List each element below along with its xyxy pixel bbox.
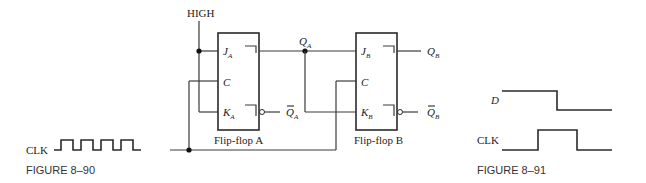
clk-waveform [54, 140, 141, 150]
cb-label: C [361, 76, 369, 88]
ffb-inverter-bubble [398, 110, 403, 115]
clk-91-label: CLK [477, 134, 499, 146]
qb-label: QB [427, 45, 440, 60]
ffa-inverter-bubble [260, 110, 265, 115]
figure-8-90-caption: FIGURE 8–90 [26, 164, 95, 176]
high-junction-dot [196, 48, 201, 53]
d-waveform [502, 91, 612, 110]
flipflop-a-label: Flip-flop A [214, 134, 263, 146]
clk-91-waveform [502, 130, 612, 150]
qa-label: QA [299, 35, 312, 50]
flipflop-b-label: Flip-flop B [354, 134, 403, 146]
figure-8-91-caption: FIGURE 8–91 [477, 164, 546, 176]
high-label: HIGH [187, 7, 215, 19]
clk-label: CLK [26, 144, 48, 156]
clk-junction-dot [186, 147, 191, 152]
d-label: D [490, 94, 499, 106]
qbar-a-label: QA [286, 106, 299, 121]
qbar-b-label: QB [427, 106, 440, 121]
ca-label: C [223, 76, 231, 88]
diagram-canvas: HIGH JA C KA Flip-flop A QA QA JB C KB F… [0, 0, 646, 183]
